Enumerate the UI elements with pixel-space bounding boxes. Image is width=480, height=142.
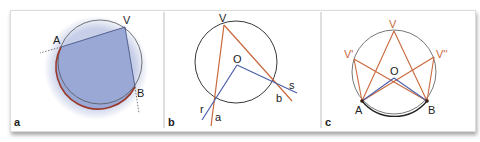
point-label-a: a: [215, 111, 222, 123]
panel-c: V V' V'' O A B c: [325, 18, 448, 128]
point-label-O: O: [233, 53, 242, 65]
point-label-s: s: [289, 79, 295, 91]
panel-label-c: c: [325, 116, 331, 128]
point-label-V: V: [123, 14, 131, 26]
point-label-r: r: [200, 103, 204, 115]
line-v2-a: [362, 57, 434, 101]
line-v1-a: [354, 59, 362, 101]
panel-label-a: a: [14, 116, 21, 128]
point-label-A: A: [355, 104, 363, 116]
point-label-V-double-prime: V'': [436, 48, 448, 60]
panel-a: A V B a: [14, 14, 148, 128]
point-label-A: A: [53, 34, 61, 46]
point-label-B: B: [428, 104, 435, 116]
line-v-b: [394, 31, 427, 101]
panel-b: V O a b r s b: [168, 12, 297, 128]
line-v2-b: [427, 57, 434, 101]
geometry-figure: A V B a V O a b r s b: [0, 0, 480, 142]
point-label-B: B: [137, 87, 144, 99]
point-label-V: V: [389, 18, 397, 30]
point-label-V: V: [219, 12, 227, 24]
point-label-V-prime: V': [344, 48, 353, 60]
panel-label-b: b: [168, 116, 175, 128]
point-B: [425, 99, 429, 103]
point-label-O: O: [390, 65, 399, 77]
point-A: [360, 99, 364, 103]
point-label-b: b: [276, 92, 282, 104]
